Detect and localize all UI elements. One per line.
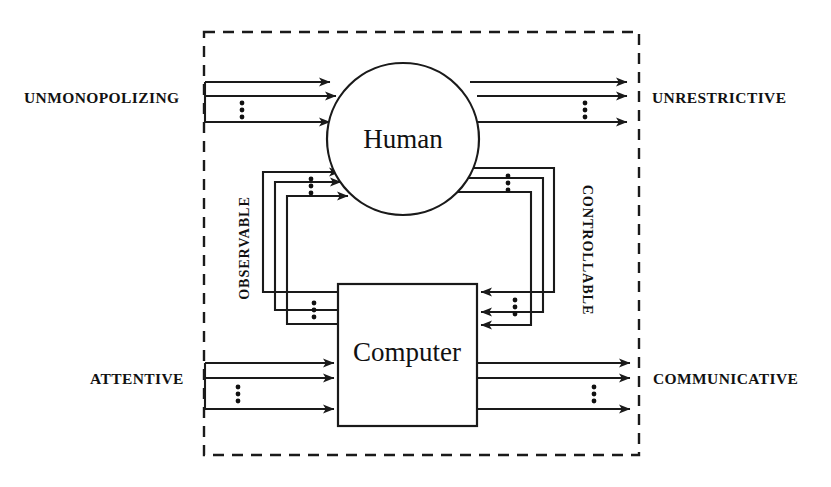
- controllable-ellipsis-top: [506, 174, 511, 193]
- human-label: Human: [363, 124, 443, 154]
- node-human: Human: [327, 63, 479, 215]
- computer-label: Computer: [353, 337, 461, 367]
- observable-loop-line-2: [275, 182, 341, 310]
- label-unmonopolizing: UNMONOPOLIZING: [24, 89, 179, 106]
- controllable-loop-line-1: [471, 168, 554, 292]
- label-attentive: ATTENTIVE: [90, 370, 184, 387]
- observable-loop-group: OBSERVABLE: [236, 172, 348, 324]
- controllable-loop-group: CONTROLLABLE: [458, 168, 596, 325]
- attentive-channel-group: ATTENTIVE: [90, 363, 334, 409]
- label-communicative: COMMUNICATIVE: [653, 370, 798, 387]
- attentive-ellipsis: [236, 385, 241, 404]
- label-observable: OBSERVABLE: [236, 196, 252, 300]
- communicative-ellipsis: [592, 385, 597, 404]
- controllable-ellipsis-bottom: [513, 298, 518, 317]
- observable-ellipsis-top: [309, 177, 314, 196]
- unmonopolizing-ellipsis: [240, 101, 245, 120]
- communicative-channel-group: COMMUNICATIVE: [477, 363, 798, 409]
- label-unrestrictive: UNRESTRICTIVE: [652, 89, 786, 106]
- unmonopolizing-channel-group: UNMONOPOLIZING: [24, 82, 336, 122]
- unrestrictive-channel-group: UNRESTRICTIVE: [470, 82, 786, 122]
- label-controllable: CONTROLLABLE: [580, 185, 596, 316]
- node-computer: Computer: [338, 284, 477, 426]
- hci-diagram: UNMONOPOLIZING UNRESTRICTIVE: [0, 0, 831, 487]
- unrestrictive-ellipsis: [583, 101, 588, 120]
- observable-ellipsis-bottom: [312, 301, 317, 320]
- diagram-root: UNMONOPOLIZING UNRESTRICTIVE: [0, 0, 831, 487]
